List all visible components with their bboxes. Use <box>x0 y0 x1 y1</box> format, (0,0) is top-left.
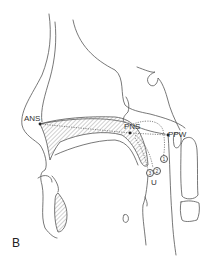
epiglottis-outline <box>145 197 147 206</box>
tongue-outline <box>55 140 138 165</box>
posterior-pharyngeal-wall <box>168 134 176 255</box>
pns-label: PNS <box>124 123 140 131</box>
pns-point <box>129 132 132 135</box>
mandible-hatched <box>55 193 67 232</box>
anterior-pharynx-outline <box>143 175 148 245</box>
position-1-marker: 1 <box>160 155 168 163</box>
uvula-label: U <box>151 179 157 187</box>
pterygoid-outline <box>123 97 128 122</box>
panel-label: B <box>12 237 20 249</box>
ans-label: ANS <box>24 115 40 123</box>
vertebra-c3 <box>180 201 199 222</box>
sphenoid-outline <box>137 67 180 130</box>
position-2-marker: 2 <box>153 167 161 175</box>
ppw-label: PPW <box>168 131 186 139</box>
vertebra-c2 <box>181 137 198 199</box>
skull-outline <box>73 20 185 128</box>
position-3-marker: 3 <box>146 169 154 177</box>
ans-point <box>39 123 42 126</box>
hyoid-outline <box>123 214 128 222</box>
nasal-inner-outline <box>42 22 56 122</box>
